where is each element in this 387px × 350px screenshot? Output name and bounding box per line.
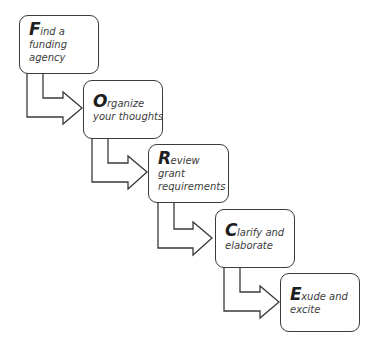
force-steps-diagram: Find a funding agency Organize your thou… — [0, 0, 387, 350]
step-text: elaborate — [225, 239, 294, 252]
step-text: requirements — [158, 180, 228, 193]
step-text: eview — [171, 155, 200, 166]
step-initial: C — [225, 220, 237, 240]
step-first-line: Clarify and — [225, 224, 294, 239]
step-text: larify and — [237, 227, 284, 238]
bent-arrow-icon — [27, 73, 82, 124]
step-first-line: Find a — [29, 23, 98, 38]
bent-arrow-icon — [92, 138, 147, 189]
bent-arrow-icon — [158, 203, 212, 255]
step-text: excite — [290, 303, 359, 316]
bent-arrow-icon — [224, 267, 279, 318]
step-text: your thoughts — [93, 110, 162, 123]
step-box-organize: Organize your thoughts — [83, 80, 163, 139]
step-first-line: Organize — [93, 95, 162, 110]
step-initial: R — [158, 148, 171, 168]
step-first-line: Review — [158, 152, 228, 167]
step-text: agency — [29, 51, 98, 64]
step-initial: O — [93, 91, 107, 111]
step-box-exude: Exude and excite — [280, 273, 360, 332]
step-box-clarify: Clarify and elaborate — [215, 209, 295, 268]
step-text: grant — [158, 167, 228, 180]
step-initial: F — [29, 19, 40, 39]
step-initial: E — [290, 284, 301, 304]
step-first-line: Exude and — [290, 288, 359, 303]
step-text: xude and — [301, 291, 348, 302]
step-text: ind a — [40, 26, 65, 37]
step-text: funding — [29, 38, 98, 51]
step-box-review: Review grant requirements — [148, 144, 229, 203]
step-text: rganize — [107, 98, 144, 109]
step-box-find: Find a funding agency — [19, 15, 99, 74]
